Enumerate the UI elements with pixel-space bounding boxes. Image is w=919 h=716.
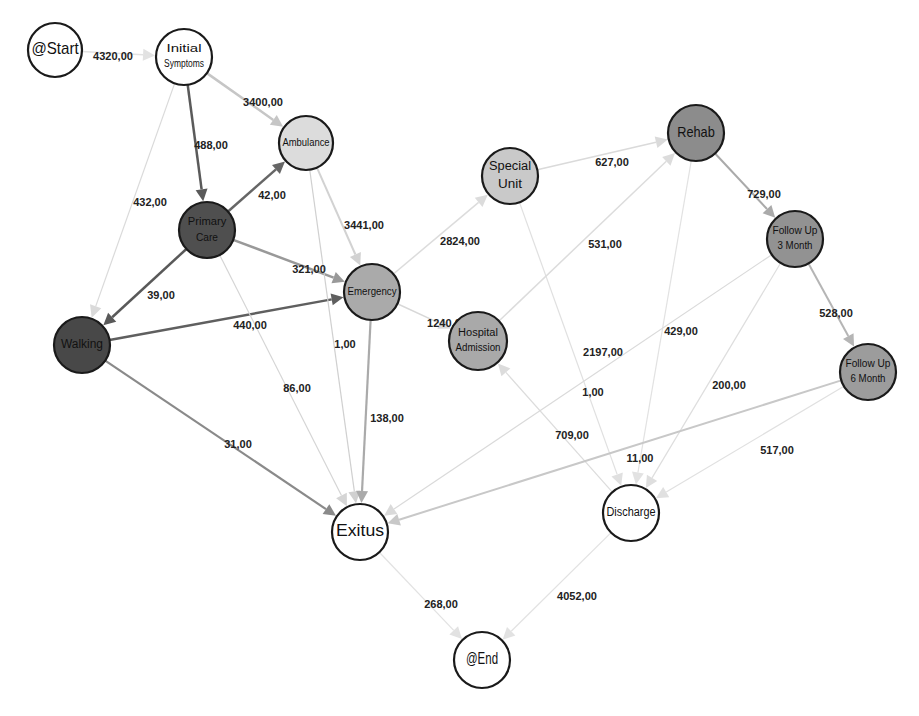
node-label: Ambulance — [282, 136, 329, 148]
node-label: Follow Up — [846, 358, 891, 369]
edge-label: 31,00 — [224, 438, 252, 450]
edge-label: 429,00 — [664, 325, 698, 337]
node-label: @Start — [31, 39, 78, 58]
edge-follow_up_6-to-discharge[interactable] — [656, 386, 844, 498]
edge-rehab-to-discharge[interactable] — [632, 161, 691, 485]
node-label: Unit — [498, 177, 523, 191]
node-label: Walking — [61, 337, 103, 351]
node-label: Follow Up — [773, 225, 818, 236]
edge-line — [112, 249, 186, 317]
edge-line — [808, 264, 848, 337]
node-circle — [179, 202, 235, 258]
edge-line — [317, 168, 355, 255]
edge-label: 440,00 — [233, 319, 267, 331]
arrowhead-icon — [331, 293, 344, 305]
edge-primary_care-to-emergency[interactable] — [233, 240, 345, 283]
edge-label: 432,00 — [133, 196, 167, 208]
edge-line — [511, 533, 611, 632]
node-label: Symptoms — [164, 58, 204, 69]
arrowhead-icon — [388, 514, 401, 525]
node-end[interactable]: @End — [454, 632, 510, 688]
node-exitus[interactable]: Exitus — [332, 504, 388, 560]
node-label: @End — [466, 650, 498, 667]
node-start[interactable]: @Start — [28, 23, 82, 77]
edge-label: 1,00 — [334, 338, 355, 350]
arrowhead-icon — [270, 115, 283, 127]
edge-exitus-to-end[interactable] — [379, 552, 462, 639]
edge-ambulance-to-emergency[interactable] — [317, 168, 361, 266]
edge-label: 86,00 — [283, 382, 311, 394]
node-rehab[interactable]: Rehab — [668, 105, 724, 161]
edge-label: 200,00 — [712, 379, 746, 391]
edge-primary_care-to-exitus[interactable] — [220, 255, 347, 506]
node-label: Special — [489, 159, 531, 173]
edge-label: 268,00 — [424, 598, 458, 610]
arrowhead-icon — [656, 487, 669, 498]
node-ambulance[interactable]: Ambulance — [279, 116, 333, 170]
edge-label: 488,00 — [194, 139, 228, 151]
node-circle — [840, 344, 896, 400]
edge-label: 3441,00 — [344, 219, 384, 231]
edge-line — [379, 552, 453, 630]
node-circle — [482, 148, 538, 204]
edge-discharge-to-end[interactable] — [503, 533, 611, 640]
node-label: Primary — [188, 215, 227, 227]
edge-label: 321,00 — [292, 263, 326, 275]
node-primary-care[interactable]: PrimaryCare — [179, 202, 235, 258]
node-label: Hospital — [458, 327, 498, 338]
edge-label: 2824,00 — [440, 235, 480, 247]
arrowhead-icon — [196, 189, 208, 202]
edge-line — [666, 386, 844, 492]
edge-follow_up_3-to-follow_up_6[interactable] — [808, 264, 854, 347]
node-label: Exitus — [336, 522, 384, 539]
edge-primary_care-to-walking[interactable] — [103, 249, 186, 325]
node-label: 6 Month — [851, 373, 886, 384]
edge-label: 4320,00 — [93, 50, 133, 62]
node-label: Admission — [456, 342, 501, 353]
arrowhead-icon — [632, 472, 644, 485]
node-discharge[interactable]: Discharge — [603, 485, 659, 541]
arrowhead-icon — [655, 136, 668, 148]
edge-line — [220, 255, 342, 495]
edge-line — [188, 85, 202, 190]
edge-label: 517,00 — [760, 444, 794, 456]
edge-walking-to-emergency[interactable] — [110, 293, 344, 339]
edge-label: 1,00 — [582, 386, 603, 398]
nodes-layer: @StartInitialSymptomsAmbulancePrimaryCar… — [28, 23, 896, 688]
arrowhead-icon — [384, 504, 397, 516]
node-initial-symptoms[interactable]: InitialSymptoms — [156, 29, 212, 85]
edge-label: 729,00 — [747, 188, 781, 200]
node-walking[interactable]: Walking — [54, 317, 110, 373]
edge-label: 138,00 — [370, 412, 404, 424]
node-label: Care — [196, 231, 218, 243]
node-follow-up-6[interactable]: Follow Up6 Month — [840, 344, 896, 400]
arrowhead-icon — [323, 504, 336, 516]
node-circle — [449, 312, 507, 370]
node-special-unit[interactable]: SpecialUnit — [482, 148, 538, 204]
arrowhead-icon — [143, 49, 155, 61]
edge-line — [110, 299, 332, 340]
node-emergency[interactable]: Emergency — [344, 264, 400, 320]
edge-label: 709,00 — [555, 429, 589, 441]
node-circle — [767, 211, 823, 267]
edge-line — [362, 320, 371, 491]
node-label: Emergency — [348, 285, 397, 297]
edge-primary_care-to-ambulance[interactable] — [228, 161, 285, 211]
edge-line — [96, 83, 175, 306]
node-label: Initial — [167, 43, 202, 54]
edge-label: 42,00 — [258, 189, 286, 201]
edge-label: 11,00 — [627, 452, 654, 464]
edge-label: 528,00 — [819, 307, 853, 319]
node-label: Rehab — [677, 123, 715, 140]
node-label: 3 Month — [778, 240, 813, 251]
edge-label: 627,00 — [595, 156, 629, 168]
edge-rehab-to-follow_up_3[interactable] — [715, 153, 775, 217]
process-flow-graph: 4320,003400,00488,00432,0042,00321,0039,… — [0, 0, 919, 716]
node-follow-up-3[interactable]: Follow Up3 Month — [767, 211, 823, 267]
arrowhead-icon — [646, 475, 657, 488]
edge-label: 4052,00 — [557, 590, 597, 602]
edge-emergency-to-exitus[interactable] — [356, 320, 371, 503]
node-hospital-admission[interactable]: HospitalAdmission — [449, 312, 507, 370]
node-label: Discharge — [607, 505, 656, 519]
node-circle — [156, 29, 212, 85]
